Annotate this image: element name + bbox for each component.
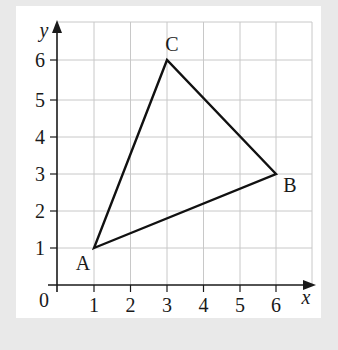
origin-label: 0 xyxy=(39,289,49,311)
y-tick-label: 4 xyxy=(35,126,45,148)
x-tick-label: 3 xyxy=(162,294,172,316)
y-tick-label: 6 xyxy=(35,49,45,71)
x-ticks xyxy=(94,285,276,292)
y-axis-label: y xyxy=(38,19,49,42)
vertex-label-c: C xyxy=(165,33,178,55)
x-tick-label: 4 xyxy=(199,294,209,316)
x-tick-label: 1 xyxy=(89,294,99,316)
y-tick-label: 5 xyxy=(35,89,45,111)
x-tick-label: 2 xyxy=(126,294,136,316)
x-tick-label: 6 xyxy=(271,294,281,316)
vertex-label-b: B xyxy=(283,174,296,196)
vertex-label-a: A xyxy=(76,252,91,274)
y-tick-label: 1 xyxy=(35,237,45,259)
y-ticks xyxy=(50,60,57,248)
coordinate-grid: 1 2 3 4 5 6 1 2 3 4 5 6 0 y x A B C xyxy=(0,0,338,350)
x-tick-label: 5 xyxy=(235,294,245,316)
y-tick-label: 2 xyxy=(35,200,45,222)
y-tick-label: 3 xyxy=(35,163,45,185)
triangle-abc xyxy=(94,60,276,248)
x-axis-label: x xyxy=(301,286,311,308)
